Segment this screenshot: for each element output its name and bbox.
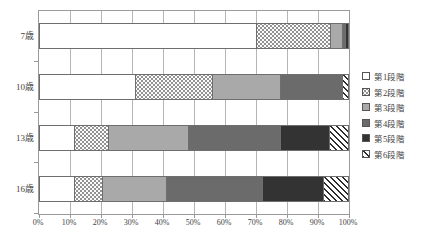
legend-swatch-icon <box>362 103 370 111</box>
y-axis-label-7歳: 7歳 <box>21 29 35 42</box>
legend-label: 第2段階 <box>374 86 405 98</box>
plot-area <box>38 10 350 215</box>
bar-segment-第3段階[interactable] <box>108 126 188 150</box>
bar-row <box>39 23 349 49</box>
legend-label: 第4段階 <box>374 117 405 129</box>
legend-label: 第3段階 <box>374 101 405 113</box>
legend-item-第3段階[interactable]: 第3段階 <box>362 101 405 113</box>
legend-item-第1段階[interactable]: 第1段階 <box>362 70 405 82</box>
x-axis-label: 100% <box>339 218 358 227</box>
x-axis-label: 0% <box>33 218 44 227</box>
bar-segment-第6段階[interactable] <box>329 126 347 150</box>
x-axis-label: 80% <box>279 218 294 227</box>
legend-item-第5段階[interactable]: 第5段階 <box>362 132 405 144</box>
bar-segment-第4段階[interactable] <box>188 126 280 150</box>
stacked-bar-chart: 7歳10歳13歳16歳 0%10%20%30%40%50%60%70%80%90… <box>0 0 422 240</box>
bar-segment-第1段階[interactable] <box>40 126 74 150</box>
stacked-bar[interactable] <box>39 176 349 202</box>
bar-row <box>39 125 349 151</box>
legend-label: 第6段階 <box>374 148 405 160</box>
x-axis-label: 90% <box>310 218 325 227</box>
bar-segment-第1段階[interactable] <box>40 75 135 99</box>
x-axis-label: 20% <box>93 218 108 227</box>
bar-segment-第1段階[interactable] <box>40 177 74 201</box>
bar-segment-第2段階[interactable] <box>135 75 212 99</box>
bar-segment-第3段階[interactable] <box>212 75 280 99</box>
y-axis-label-13歳: 13歳 <box>16 131 34 144</box>
bar-segment-第5段階[interactable] <box>345 24 348 48</box>
bar-segment-第6段階[interactable] <box>323 177 348 201</box>
y-axis-label-10歳: 10歳 <box>16 80 34 93</box>
legend-item-第6段階[interactable]: 第6段階 <box>362 148 405 160</box>
stacked-bar[interactable] <box>39 125 349 151</box>
legend-item-第4段階[interactable]: 第4段階 <box>362 117 405 129</box>
legend-label: 第5段階 <box>374 132 405 144</box>
bar-segment-第5段階[interactable] <box>262 177 324 201</box>
bar-segment-第1段階[interactable] <box>40 24 256 48</box>
legend-swatch-icon <box>362 134 370 142</box>
x-axis-label: 40% <box>155 218 170 227</box>
legend: 第1段階第2段階第3段階第4段階第5段階第6段階 <box>362 70 405 160</box>
legend-item-第2段階[interactable]: 第2段階 <box>362 86 405 98</box>
bar-segment-第4段階[interactable] <box>166 177 261 201</box>
legend-swatch-icon <box>362 72 370 80</box>
stacked-bar[interactable] <box>39 74 349 100</box>
bar-segment-第6段階[interactable] <box>342 75 348 99</box>
x-axis-label: 30% <box>124 218 139 227</box>
bar-segment-第3段階[interactable] <box>330 24 342 48</box>
bar-segment-第5段階[interactable] <box>280 126 329 150</box>
legend-swatch-icon <box>362 88 370 96</box>
bar-segment-第4段階[interactable] <box>280 75 342 99</box>
legend-swatch-icon <box>362 119 370 127</box>
x-axis-labels: 0%10%20%30%40%50%60%70%80%90%100% <box>38 218 350 232</box>
bar-segment-第2段階[interactable] <box>74 177 102 201</box>
x-axis-label: 50% <box>186 218 201 227</box>
legend-label: 第1段階 <box>374 70 405 82</box>
bar-segment-第2段階[interactable] <box>74 126 108 150</box>
x-axis-label: 60% <box>217 218 232 227</box>
x-axis-label: 70% <box>248 218 263 227</box>
legend-swatch-icon <box>362 150 370 158</box>
bar-row <box>39 74 349 100</box>
stacked-bar[interactable] <box>39 23 349 49</box>
bar-segment-第2段階[interactable] <box>256 24 330 48</box>
x-axis-label: 10% <box>62 218 77 227</box>
bar-row <box>39 176 349 202</box>
y-axis-labels: 7歳10歳13歳16歳 <box>0 10 34 215</box>
bar-segment-第3段階[interactable] <box>102 177 167 201</box>
y-axis-label-16歳: 16歳 <box>16 182 34 195</box>
